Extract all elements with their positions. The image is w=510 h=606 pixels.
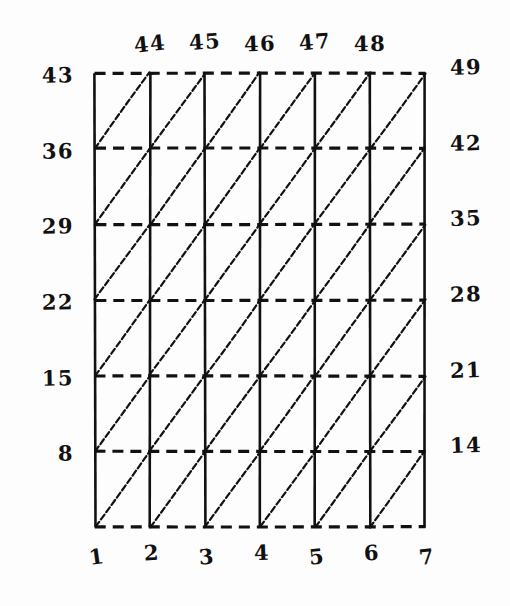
right-label-21: 21 — [450, 359, 483, 381]
bottom-label-5: 5 — [308, 545, 326, 568]
top-label-45: 45 — [188, 30, 222, 53]
diagonal-r4-c5 — [370, 376, 426, 451]
diagonal-r3-c2 — [205, 300, 260, 376]
diagonal-r3-c3 — [260, 300, 316, 376]
diagonal-r2-c5 — [370, 225, 425, 300]
left-label-29: 29 — [42, 216, 75, 238]
diagonal-r5-c5 — [370, 451, 425, 528]
right-label-28: 28 — [450, 283, 483, 305]
diagram-page: 4445464748 1234567 43362922158 494235282… — [0, 0, 510, 606]
diagonal-r1-c3 — [260, 148, 315, 224]
diagonal-r1-c2 — [205, 148, 260, 224]
diagonal-r2-c0 — [95, 224, 151, 299]
diagonal-r4-c1 — [150, 376, 205, 451]
diagonal-r0-c4 — [315, 72, 370, 148]
diagonal-r3-c0 — [95, 300, 150, 376]
diagonal-r1-c1 — [151, 148, 205, 224]
left-label-8: 8 — [58, 443, 74, 464]
diagonal-r5-c4 — [316, 451, 371, 527]
right-label-49: 49 — [450, 56, 483, 78]
diagonal-r1-c4 — [315, 149, 370, 224]
diagonal-r5-c0 — [96, 451, 150, 526]
diagonal-r2-c1 — [150, 225, 205, 301]
diagonal-r5-c2 — [205, 451, 261, 527]
diagonal-r2-c2 — [205, 225, 260, 301]
left-label-22: 22 — [42, 291, 75, 313]
bottom-label-4: 4 — [254, 542, 271, 564]
bottom-label-6: 6 — [363, 542, 380, 564]
diagonal-r1-c5 — [369, 148, 424, 224]
diagonal-r0-c1 — [150, 73, 206, 149]
bottom-label-2: 2 — [143, 542, 160, 564]
top-label-48: 48 — [354, 33, 387, 55]
right-label-42: 42 — [450, 132, 483, 154]
diagonal-r4-c2 — [206, 376, 261, 451]
left-label-36: 36 — [42, 140, 75, 162]
top-label-47: 47 — [298, 30, 332, 54]
diagonal-r4-c4 — [315, 375, 370, 451]
bottom-label-1: 1 — [88, 545, 107, 568]
diagonal-r4-c3 — [260, 376, 315, 452]
diagonal-r4-c0 — [95, 376, 150, 452]
right-label-14: 14 — [450, 434, 483, 456]
diagonal-r3-c5 — [370, 299, 426, 376]
diagonal-r1-c0 — [95, 148, 150, 224]
lattice-grid — [0, 0, 510, 606]
diagonal-r3-c4 — [315, 301, 370, 376]
diagonal-r2-c3 — [260, 224, 314, 300]
right-label-35: 35 — [450, 207, 483, 229]
diagonal-r5-c1 — [150, 451, 205, 527]
diagonal-r0-c2 — [205, 73, 259, 149]
diagonal-r5-c3 — [260, 452, 315, 527]
top-label-44: 44 — [133, 31, 167, 55]
diagonal-r0-c0 — [95, 72, 149, 148]
diagonal-r2-c4 — [315, 225, 370, 301]
bottom-label-7: 7 — [418, 545, 437, 568]
bottom-label-3: 3 — [198, 545, 216, 567]
left-label-43: 43 — [42, 64, 75, 86]
diagonal-r0-c3 — [260, 73, 315, 149]
top-label-46: 46 — [244, 32, 277, 54]
left-label-15: 15 — [42, 367, 75, 389]
diagonal-r0-c5 — [371, 74, 426, 149]
diagonal-r3-c1 — [149, 300, 204, 375]
